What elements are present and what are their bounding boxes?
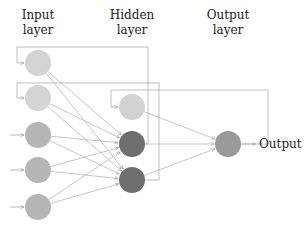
output-node-o1 bbox=[215, 131, 241, 157]
edge-h3-o1 bbox=[144, 149, 215, 176]
edge-i2-h2 bbox=[50, 104, 120, 138]
input-node-i2 bbox=[25, 85, 51, 111]
edge-i1-h2 bbox=[48, 71, 122, 134]
edge-i4-h3 bbox=[51, 171, 118, 178]
hidden-node-h2 bbox=[119, 131, 145, 157]
edge-i4-h2 bbox=[51, 148, 119, 167]
edge-i5-h2 bbox=[49, 152, 121, 200]
edge-i3-h2 bbox=[51, 136, 118, 142]
hidden-node-h3 bbox=[119, 167, 145, 193]
input-node-i4 bbox=[25, 157, 51, 183]
output-label: Output bbox=[259, 137, 302, 151]
neural-network-diagram: Output bbox=[0, 0, 306, 241]
nodes bbox=[25, 50, 241, 220]
input-node-i3 bbox=[25, 122, 51, 148]
input-node-i5 bbox=[25, 194, 51, 220]
edge-i2-h3 bbox=[48, 107, 122, 171]
edge-i5-h3 bbox=[50, 184, 118, 204]
input-arrows bbox=[10, 135, 24, 207]
input-node-i1 bbox=[25, 50, 51, 76]
edge-h1-o1 bbox=[144, 112, 215, 139]
hidden-node-h1 bbox=[119, 94, 145, 120]
